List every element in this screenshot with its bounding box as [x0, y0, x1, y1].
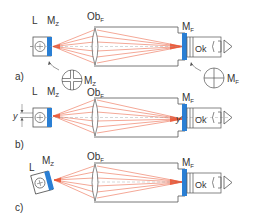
label-target-mark: MZ	[47, 86, 59, 98]
focus-mark	[182, 169, 187, 196]
eye-icon	[224, 176, 232, 189]
offset-y-dimension	[20, 104, 33, 127]
label-target-mark: MZ	[47, 15, 59, 27]
panel-c: L MZ ObF MF Ok c)	[15, 151, 232, 213]
label-objective: ObF	[87, 11, 104, 23]
label-objective: ObF	[87, 151, 104, 163]
eye-icon	[224, 40, 232, 53]
light-rays	[53, 100, 183, 133]
label-eyepiece: Ok	[195, 180, 207, 190]
label-focus-mark: MF	[182, 92, 194, 104]
label-reticle-mf: MF	[227, 73, 239, 85]
reticle-mz-inset	[62, 70, 82, 90]
panel-label-a: a)	[15, 71, 24, 82]
label-lamp: L	[29, 162, 35, 173]
focus-mark	[182, 33, 187, 60]
optical-diagram: L MZ ObF MF Ok a) MZ MF	[0, 0, 255, 218]
panel-label-b: b)	[15, 139, 24, 150]
objective-lens	[92, 99, 98, 136]
reticle-mf-inset	[204, 68, 224, 88]
label-reticle-mz: MZ	[84, 75, 96, 87]
panel-label-c: c)	[15, 202, 23, 213]
focus-mark	[182, 104, 187, 131]
objective-lens	[92, 28, 98, 65]
label-focus-mark: MF	[182, 21, 194, 33]
label-offset-y: y	[12, 111, 18, 121]
label-focus-mark: MF	[182, 157, 194, 169]
label-lamp: L	[32, 15, 38, 26]
label-offset-y-prime: y'	[175, 114, 183, 124]
label-lamp: L	[32, 86, 38, 97]
label-eyepiece: Ok	[195, 115, 207, 125]
label-objective: ObF	[87, 87, 104, 99]
panel-a: L MZ ObF MF Ok a) MZ MF	[15, 11, 239, 90]
label-target-mark: MZ	[42, 155, 54, 167]
objective-lens	[92, 164, 98, 201]
panel-b: y y' L	[12, 86, 232, 150]
lamp-target-unit-tilted	[31, 171, 54, 194]
label-eyepiece: Ok	[195, 44, 207, 54]
